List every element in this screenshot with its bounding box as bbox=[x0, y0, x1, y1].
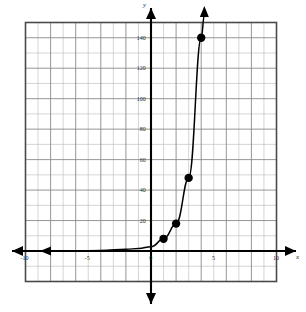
x-tick-label--5: -5 bbox=[85, 255, 90, 261]
data-point bbox=[184, 174, 192, 182]
y-tick-label-20: 20 bbox=[140, 218, 146, 224]
coordinate-plane-svg bbox=[0, 0, 306, 312]
y-tick-label-100: 100 bbox=[137, 96, 146, 102]
y-tick-label-40: 40 bbox=[140, 187, 146, 193]
y-tick-label-120: 120 bbox=[137, 65, 146, 71]
y-axis-name: y bbox=[143, 2, 146, 9]
x-tick-label--10: -10 bbox=[20, 255, 28, 261]
data-point bbox=[159, 235, 167, 243]
x-tick-label-10: 10 bbox=[273, 255, 279, 261]
x-axis-name: x bbox=[296, 254, 299, 261]
graph-figure: -10-5051020406080100120140xy bbox=[0, 0, 306, 312]
y-tick-label-60: 60 bbox=[140, 157, 146, 163]
y-tick-label-140: 140 bbox=[137, 35, 146, 41]
data-point bbox=[197, 34, 205, 42]
y-tick-label-80: 80 bbox=[140, 126, 146, 132]
data-point bbox=[172, 219, 180, 227]
data-points bbox=[159, 34, 205, 244]
axes bbox=[12, 8, 296, 304]
x-tick-label-0: 0 bbox=[149, 255, 152, 261]
x-tick-label-5: 5 bbox=[212, 255, 215, 261]
exponential-curve bbox=[26, 15, 205, 251]
curve-arrow-icon bbox=[200, 6, 209, 17]
